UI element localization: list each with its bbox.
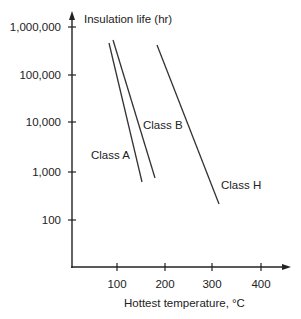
x-tick-label: 200 bbox=[155, 278, 174, 290]
class-a-label: Class A bbox=[91, 149, 130, 161]
x-axis bbox=[71, 264, 291, 270]
y-axis bbox=[69, 11, 75, 268]
class-a-line bbox=[109, 43, 142, 182]
x-tick-label: 300 bbox=[202, 278, 221, 290]
x-axis-arrow-icon bbox=[282, 264, 291, 270]
y-tick-label: 100,000 bbox=[19, 69, 61, 81]
y-axis-title: Insulation life (hr) bbox=[84, 13, 172, 25]
y-ticks: 1,000,000 100,000 10,000 1,000 100 bbox=[10, 21, 76, 226]
y-tick-label: 1,000 bbox=[32, 166, 61, 178]
insulation-life-chart: 1,000,000 100,000 10,000 1,000 100 100 2… bbox=[0, 0, 301, 319]
y-axis-arrow-icon bbox=[69, 11, 75, 20]
x-axis-title: Hottest temperature, °C bbox=[124, 297, 245, 309]
class-h-label: Class H bbox=[221, 179, 261, 191]
y-tick-label: 100 bbox=[42, 214, 61, 226]
y-tick-label: 1,000,000 bbox=[10, 21, 61, 33]
class-b-label: Class B bbox=[143, 119, 183, 131]
x-tick-label: 100 bbox=[107, 278, 126, 290]
x-tick-label: 400 bbox=[251, 278, 270, 290]
y-tick-label: 10,000 bbox=[26, 116, 61, 128]
